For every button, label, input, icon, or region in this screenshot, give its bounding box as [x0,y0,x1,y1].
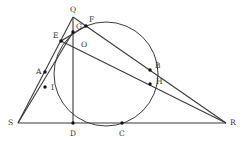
label-e: E [53,31,58,40]
point-b-dot [148,68,151,71]
label-o: O [81,40,87,49]
point-f-dot [84,24,87,27]
label-r: R [230,118,236,127]
point-a-dot [43,70,46,73]
label-b: B [155,61,161,70]
label-q: Q [70,5,76,14]
label-i: I [51,83,54,92]
point-d-dot [71,121,74,124]
label-c: C [119,129,125,138]
point-i-dot [43,85,46,88]
point-h-dot [148,82,151,85]
segment-sq [18,17,73,123]
label-d: D [70,129,76,138]
label-f: F [89,15,94,24]
segment-sg [18,32,73,123]
point-c-dot [120,121,123,124]
label-s: S [8,118,13,127]
point-e-dot [59,39,62,42]
segment-fr [86,26,226,123]
geometry-diagram: QFGEOAISDCRBH [0,0,248,157]
point-g-dot [71,30,74,33]
label-g: G [76,22,82,31]
label-a: A [35,67,42,76]
point-dots [43,24,151,124]
label-h: H [156,77,163,86]
line-segments [18,17,226,123]
